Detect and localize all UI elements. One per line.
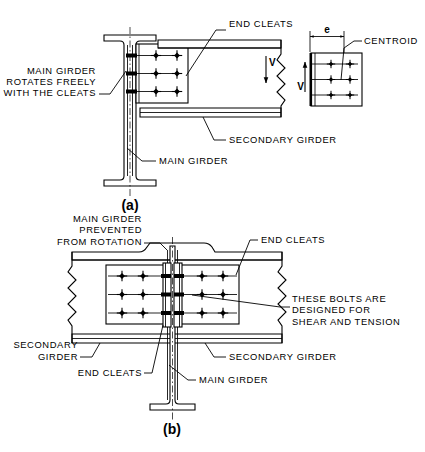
- label-secondary-girder-b-right: SECONDARY GIRDER: [229, 351, 337, 362]
- shear-force-label-a: V: [269, 57, 276, 68]
- label-main-girder-a: MAIN GIRDER: [159, 155, 228, 166]
- panel-a: V END CLEATS MAIN GIRDER ROTATES FREELY …: [3, 18, 336, 213]
- label-secondary-girder-b-left: SECONDARY GIRDER: [13, 339, 78, 362]
- svg-text:GIRDER: GIRDER: [38, 351, 78, 362]
- label-end-cleats-b-top: END CLEATS: [261, 234, 325, 245]
- svg-text:ROTATES FREELY: ROTATES FREELY: [6, 76, 96, 87]
- label-main-girder-b: MAIN GIRDER: [199, 374, 268, 385]
- dimension-e-label: e: [324, 24, 330, 35]
- caption-panel-a: (a): [121, 197, 138, 213]
- label-end-cleats-b-bottom: END CLEATS: [78, 367, 142, 378]
- svg-text:WITH THE CLEATS: WITH THE CLEATS: [3, 87, 96, 98]
- svg-text:SHEAR AND TENSION: SHEAR AND TENSION: [292, 316, 401, 327]
- label-end-cleats-a: END CLEATS: [229, 18, 293, 29]
- label-main-girder-prevented: MAIN GIRDER PREVENTED FROM ROTATION: [57, 213, 142, 247]
- panel-b: MAIN GIRDER PREVENTED FROM ROTATION END …: [13, 213, 400, 437]
- svg-text:THESE BOLTS ARE: THESE BOLTS ARE: [292, 293, 386, 304]
- detail-shear-arrow: V: [297, 62, 305, 92]
- detail-shear-label: V: [297, 81, 304, 92]
- svg-text:SECONDARY: SECONDARY: [13, 339, 78, 350]
- technical-drawing-svg: V END CLEATS MAIN GIRDER ROTATES FREELY …: [0, 0, 425, 452]
- svg-text:PREVENTED: PREVENTED: [79, 224, 142, 235]
- shear-force-arrow-a: V: [266, 56, 276, 83]
- label-centroid: CENTROID: [364, 35, 418, 46]
- caption-panel-b: (b): [163, 421, 181, 437]
- engineering-figure: V END CLEATS MAIN GIRDER ROTATES FREELY …: [0, 0, 425, 452]
- svg-text:MAIN GIRDER: MAIN GIRDER: [73, 213, 142, 224]
- svg-text:MAIN GIRDER: MAIN GIRDER: [27, 65, 96, 76]
- label-secondary-girder-a: SECONDARY GIRDER: [229, 134, 337, 145]
- bolt-group-detail-view: e CENTROID V: [297, 24, 417, 106]
- label-bolts-note: THESE BOLTS ARE DESIGNED FOR SHEAR AND T…: [292, 293, 401, 327]
- dimension-e: e: [310, 24, 344, 37]
- label-main-girder-rotates: MAIN GIRDER ROTATES FREELY WITH THE CLEA…: [3, 65, 96, 98]
- svg-text:DESIGNED FOR: DESIGNED FOR: [292, 304, 371, 315]
- svg-text:FROM ROTATION: FROM ROTATION: [57, 236, 142, 247]
